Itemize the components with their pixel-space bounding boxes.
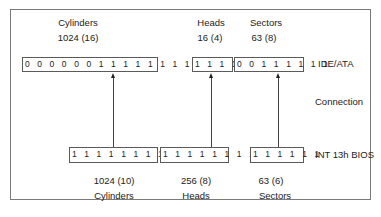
cylinders-connector-line <box>113 77 114 147</box>
bottom-sectors-bits: 1 1 1 1 1 1 <box>250 147 304 163</box>
bottom-cylinders-bits: 1 1 1 1 1 1 1 1 1 1 <box>69 147 158 163</box>
top-cylinders-name: Cylinders <box>58 17 98 28</box>
top-heads-name: Heads <box>197 17 224 28</box>
bottom-heads-value: 256 (8) <box>181 175 211 186</box>
sectors-arrowhead-icon <box>276 73 280 78</box>
bottom-sectors-value: 63 (6) <box>259 175 284 186</box>
top-heads-value: 16 (4) <box>198 32 223 43</box>
top-cylinders-bits: 0 0 0 0 0 0 1 1 1 1 1 1 1 1 1 1 <box>22 57 158 72</box>
bottom-heads-name: Heads <box>182 190 209 201</box>
bottom-sectors-name: Sectors <box>259 190 291 201</box>
connection-label: Connection <box>315 96 363 107</box>
ide-ata-label: IDE/ATA <box>318 58 354 69</box>
heads-connector-line <box>211 77 212 147</box>
top-sectors-value: 63 (8) <box>252 32 277 43</box>
sectors-connector-line <box>278 77 279 147</box>
bottom-cylinders-value: 1024 (10) <box>94 175 135 186</box>
heads-arrowhead-icon <box>209 73 213 78</box>
bottom-heads-bits: 1 1 1 1 1 1 1 1 <box>160 147 229 163</box>
top-cylinders-value: 1024 (16) <box>58 32 99 43</box>
top-heads-bits: 1 1 1 1 <box>192 57 233 72</box>
bottom-cylinders-name: Cylinders <box>94 190 134 201</box>
top-sectors-bits: 0 0 1 1 1 1 1 1 <box>234 57 304 72</box>
cylinders-arrowhead-icon <box>111 73 115 78</box>
int13h-bios-label: INT 13h BIOS <box>315 149 374 160</box>
top-sectors-name: Sectors <box>250 17 282 28</box>
